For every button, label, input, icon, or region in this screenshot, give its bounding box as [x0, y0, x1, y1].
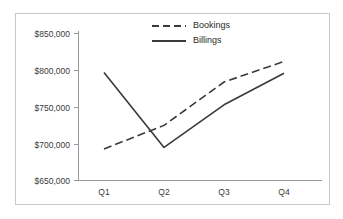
legend-label-bookings: Bookings [193, 20, 231, 30]
y-axis-label-650000: $650,000 [35, 176, 71, 186]
line-chart: $850,000 $800,000 $750,000 $700,000 $650… [0, 0, 343, 219]
chart-legend: Bookings Billings [152, 20, 231, 45]
y-axis-ticks [74, 34, 79, 181]
x-axis-label-q3: Q3 [218, 187, 230, 197]
chart-axes [79, 31, 323, 181]
x-axis-labels: Q1 Q2 Q3 Q4 [98, 187, 290, 197]
y-axis-label-750000: $750,000 [35, 103, 71, 113]
chart-series-group [104, 61, 284, 148]
x-axis-label-q2: Q2 [158, 187, 170, 197]
y-axis-label-800000: $800,000 [35, 66, 71, 76]
y-axis-label-700000: $700,000 [35, 140, 71, 150]
chart-container: $850,000 $800,000 $750,000 $700,000 $650… [0, 0, 343, 219]
y-axis-label-850000: $850,000 [35, 29, 71, 39]
series-line-billings [104, 72, 284, 147]
y-axis-labels: $850,000 $800,000 $750,000 $700,000 $650… [35, 29, 71, 186]
legend-label-billings: Billings [193, 35, 222, 45]
x-axis-label-q4: Q4 [278, 187, 290, 197]
x-axis-label-q1: Q1 [98, 187, 110, 197]
